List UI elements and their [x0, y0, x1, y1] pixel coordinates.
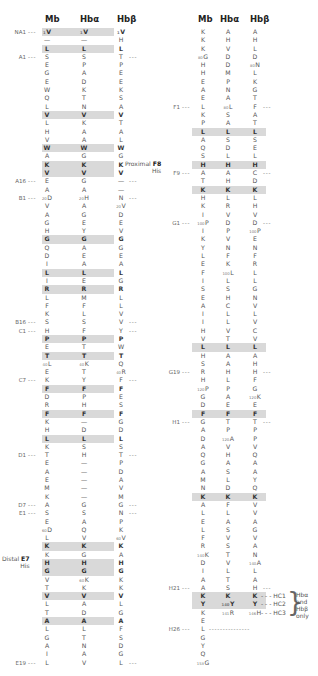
residue-hba: H	[220, 177, 236, 185]
residue-hbb: N	[113, 509, 129, 517]
residue-hbb: V	[113, 484, 129, 492]
residue-mb: A	[195, 426, 211, 434]
residue-mb: P	[39, 335, 55, 343]
residue-number: 80	[224, 105, 229, 110]
alignment-row: IAG	[0, 650, 160, 658]
residue-hbb: K	[113, 584, 129, 592]
residue-hba: A	[220, 518, 236, 526]
residue-mb: A	[195, 468, 211, 476]
alignment-row: KKK	[160, 186, 318, 194]
alignment-row: Y	[160, 642, 318, 650]
header-hba: Hbα	[80, 14, 99, 24]
residue-hba: L	[220, 194, 236, 202]
residue-hbb: A	[113, 103, 129, 111]
residue-hbb: D	[113, 642, 129, 650]
residue-hba: F	[76, 385, 92, 393]
residue-hba: H	[76, 401, 92, 409]
residue-mb: A	[39, 468, 55, 476]
residue-hbb: N	[113, 194, 129, 202]
residue-mb: A	[195, 501, 211, 509]
residue-hbb: A	[247, 352, 263, 360]
alignment-row: B16- - -SSV- - -	[0, 318, 160, 326]
residue-mb: H	[195, 161, 211, 169]
alignment-row: VVV	[0, 111, 160, 119]
residue-hbb: V	[113, 318, 129, 326]
residue-mb: L	[39, 294, 55, 302]
residue-mb: A	[39, 617, 55, 625]
residue-hbb: T	[247, 119, 263, 127]
leader-dash: - - -	[28, 28, 35, 36]
residue-mb: W	[39, 86, 55, 94]
residue-mb: L	[39, 119, 55, 127]
residue-mb: A	[195, 86, 211, 94]
residue-mb: Y	[195, 642, 211, 650]
residue-mb: H	[195, 327, 211, 335]
alignment-row: EPK	[160, 78, 318, 86]
residue-hba: V	[220, 443, 236, 451]
alignment-row: ANG	[160, 86, 318, 94]
residue-hbb: C	[247, 327, 263, 335]
leader-dash: - - -	[129, 501, 136, 509]
residue-hba: R	[76, 285, 92, 293]
helix-position-label: NA1	[0, 28, 26, 36]
alignment-row: VTV	[160, 335, 318, 343]
residue-hbb: L	[247, 343, 263, 351]
residue-hba: S	[220, 526, 236, 534]
residue-mb: G	[195, 459, 211, 467]
residue-hba: D	[220, 484, 236, 492]
residue-mb: H	[39, 128, 55, 136]
residue-mb: L	[195, 509, 211, 517]
alignment-row: EAT	[160, 94, 318, 102]
residue-mb: H	[39, 559, 55, 567]
residue-mb: G	[39, 634, 55, 642]
alignment-row: Q	[160, 650, 318, 658]
alignment-row: 40L40KQ	[0, 360, 160, 368]
residue-number: 40	[79, 362, 84, 367]
residue-mb: Y	[195, 600, 211, 608]
alignment-row: LAL	[0, 600, 160, 608]
residue-mb: G	[39, 235, 55, 243]
residue-mb: P	[195, 119, 211, 127]
alignment-row: ILL	[160, 567, 318, 575]
alignment-row: LLV	[160, 509, 318, 517]
residue-mb: G	[39, 69, 55, 77]
residue-hba: D	[220, 144, 236, 152]
residue-hba: —	[76, 476, 92, 484]
residue-hba: Q	[76, 526, 92, 534]
alignment-row: LLL	[160, 128, 318, 136]
header-hbb: Hbβ	[250, 14, 269, 24]
residue-mb: H	[195, 376, 211, 384]
alignment-row: 80GDD	[160, 53, 318, 61]
residue-hba: P	[220, 385, 236, 393]
helix-position-label: E1	[0, 509, 26, 517]
alignment-row: AFV	[160, 501, 318, 509]
residue-hbb: Q	[113, 360, 129, 368]
residue-hbb: Y	[247, 476, 263, 484]
residue-number: 60	[79, 578, 84, 583]
alignment-row: DPE	[0, 393, 160, 401]
residue-mb: D	[195, 559, 211, 567]
alignment-row: WWW	[0, 144, 160, 152]
residue-hba: M	[76, 294, 92, 302]
residue-mb: A	[39, 152, 55, 160]
leader-dash: - - -	[129, 318, 136, 326]
alignment-row: GAE	[0, 69, 160, 77]
residue-mb: K	[39, 493, 55, 501]
alignment-row: KKK	[0, 542, 160, 550]
proximal-his-label: Proximal F8 His	[125, 160, 161, 174]
residue-hbb: E	[247, 401, 263, 409]
residue-mb: H	[39, 426, 55, 434]
residue-hba: A	[76, 128, 92, 136]
residue-hba: —	[76, 468, 92, 476]
residue-hbb: G	[247, 526, 263, 534]
leader-dash: - - -	[129, 53, 136, 61]
leader-dash: - - -	[263, 368, 270, 376]
residue-hbb: L	[113, 435, 129, 443]
residue-hba: T	[76, 94, 92, 102]
residue-hbb: K	[113, 542, 129, 550]
residue-hba: A	[220, 360, 236, 368]
residue-hba: L	[76, 625, 92, 633]
residue-hba: K	[76, 584, 92, 592]
residue-hbb: T	[113, 352, 129, 360]
residue-mb: K	[39, 310, 55, 318]
